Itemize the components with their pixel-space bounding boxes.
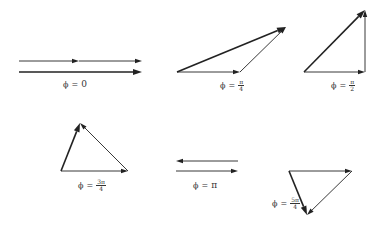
arrowhead-icon bbox=[135, 59, 142, 63]
vector-resultant-line bbox=[304, 16, 359, 72]
label-phi-pi: ϕ = π bbox=[193, 180, 217, 190]
phi-symbol: ϕ bbox=[220, 81, 225, 90]
phase-value: 0 bbox=[81, 79, 87, 89]
arrowhead-icon bbox=[133, 69, 142, 75]
equals-sign: = bbox=[339, 81, 346, 90]
equals-sign: = bbox=[280, 199, 287, 208]
label-phi-3pi-over-4: ϕ = 3π 4 bbox=[78, 179, 106, 192]
label-phi-pi-over-2: ϕ = π 2 bbox=[331, 79, 355, 92]
phi-symbol: ϕ bbox=[272, 199, 277, 208]
panel-phi-pi-over-2 bbox=[304, 10, 367, 74]
phi-symbol: ϕ bbox=[193, 181, 198, 190]
phase-value: π bbox=[211, 180, 217, 190]
arrowhead-icon bbox=[74, 123, 80, 132]
fraction-denominator: 4 bbox=[239, 86, 243, 92]
label-phi-pi-over-4: ϕ = π 4 bbox=[220, 79, 244, 92]
arrowhead-icon bbox=[176, 159, 183, 163]
fraction-denominator: 2 bbox=[350, 86, 354, 92]
equals-sign: = bbox=[228, 81, 235, 90]
panel-phi-pi bbox=[176, 159, 238, 173]
fraction-denominator: 4 bbox=[293, 204, 297, 210]
phi-symbol: ϕ bbox=[331, 81, 336, 90]
phasor-diagram bbox=[0, 0, 380, 225]
phase-fraction: π 2 bbox=[349, 79, 355, 92]
phase-fraction: 3π 4 bbox=[96, 179, 106, 192]
label-phi-0: ϕ = 0 bbox=[63, 79, 87, 89]
fraction-denominator: 4 bbox=[99, 186, 103, 192]
panel-phi-0 bbox=[19, 59, 142, 75]
vector-resultant-line bbox=[177, 30, 278, 72]
arrowhead-icon bbox=[233, 70, 240, 74]
phi-symbol: ϕ bbox=[78, 181, 83, 190]
vector-resultant-line bbox=[61, 131, 77, 171]
arrowhead-icon bbox=[231, 169, 238, 173]
phi-symbol: ϕ bbox=[63, 80, 68, 89]
vector-component-2-line bbox=[85, 128, 128, 171]
equals-sign: = bbox=[86, 181, 93, 190]
vector-component-2-line bbox=[312, 171, 352, 210]
arrowhead-icon bbox=[301, 206, 307, 215]
arrowhead-icon bbox=[358, 70, 365, 74]
phase-fraction: π 4 bbox=[238, 79, 244, 92]
arrowhead-icon bbox=[72, 59, 79, 63]
label-phi-5pi-over-4: ϕ = 5π 4 bbox=[272, 197, 300, 210]
equals-sign: = bbox=[201, 181, 208, 190]
phase-fraction: 5π 4 bbox=[290, 197, 300, 210]
arrowhead-icon bbox=[277, 27, 286, 33]
panel-phi-pi-over-4 bbox=[177, 27, 286, 74]
equals-sign: = bbox=[71, 80, 78, 89]
panel-phi-3pi-over-4 bbox=[61, 123, 128, 173]
